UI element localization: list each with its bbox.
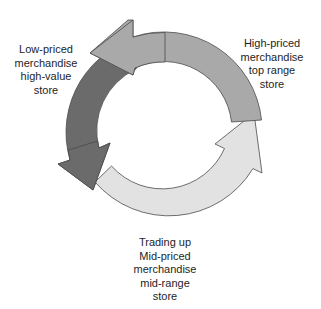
stage-label-line: mid-range <box>110 277 220 291</box>
stage-label-line: merchandise <box>226 51 318 65</box>
stage-label-line: store <box>226 78 318 92</box>
stage-label-line: Mid-priced <box>110 250 220 264</box>
stage-label-line: merchandise <box>110 263 220 277</box>
stage-label-line: top range <box>226 64 318 78</box>
stage-label-line: store <box>0 84 92 98</box>
stage-label-line: store <box>110 290 220 304</box>
stage-label-high-priced: High-priced merchandise top range store <box>226 37 318 91</box>
stage-label-line: Low-priced <box>0 43 92 57</box>
stage-label-line: high-value <box>0 70 92 84</box>
stage-label-line: Trading up <box>110 236 220 250</box>
stage-label-mid-priced: Trading up Mid-priced merchandise mid-ra… <box>110 236 220 304</box>
stage-label-low-priced: Low-priced merchandise high-value store <box>0 43 92 97</box>
stage-label-line: High-priced <box>226 37 318 51</box>
stage-label-line: merchandise <box>0 57 92 71</box>
arrow-mid-to-high <box>95 113 262 216</box>
